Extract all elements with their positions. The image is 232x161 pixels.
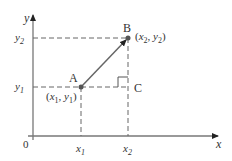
y2-tick-label: y2	[14, 31, 24, 46]
point-a-coords: (x1, y1)	[46, 90, 77, 105]
right-angle-marker	[118, 77, 128, 87]
point-b-label: B	[123, 21, 131, 35]
point-b	[126, 36, 131, 41]
y1-tick-label: y1	[14, 80, 24, 95]
x1-tick-label: x1	[75, 142, 85, 157]
x-axis-label: x	[215, 137, 222, 151]
point-a	[79, 85, 84, 90]
point-a-label: A	[69, 71, 78, 85]
point-b-coords: (x2, y2)	[135, 30, 166, 45]
x2-tick-label: x2	[122, 142, 132, 157]
origin-label: 0	[23, 138, 29, 150]
coordinate-diagram: y x 0 y2 y1 x1 x2 A B C (x1, y1) (x2, y2…	[0, 0, 232, 161]
segment-ab	[81, 40, 126, 87]
point-c-label: C	[134, 81, 142, 95]
y-axis-label: y	[23, 11, 30, 25]
